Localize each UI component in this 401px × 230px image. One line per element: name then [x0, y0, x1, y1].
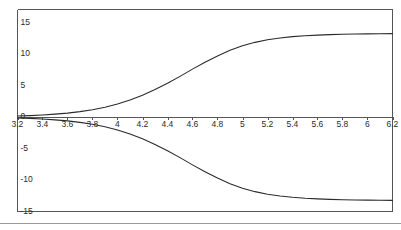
- x-tick-label-3: 3.8: [87, 120, 99, 129]
- x-tick-label-12: 5.6: [312, 120, 324, 129]
- y-tick-label-5: -10: [21, 175, 33, 184]
- x-tick-label-1: 3.4: [37, 120, 49, 129]
- x-tick-label-5: 4.2: [137, 120, 149, 129]
- y-tick-label-2: 5: [21, 81, 26, 90]
- curve-lower-branch: [18, 118, 393, 200]
- plot-canvas: [0, 0, 401, 230]
- x-tick-label-14: 6: [365, 120, 370, 129]
- y-tick-label-6: -15: [21, 207, 33, 216]
- x-tick-label-8: 4.8: [212, 120, 224, 129]
- plot-frame: [18, 10, 393, 212]
- x-tick-label-11: 5.4: [287, 120, 299, 129]
- page-separator-rule: [0, 223, 401, 224]
- x-tick-label-10: 5.2: [262, 120, 274, 129]
- x-tick-label-13: 5.8: [337, 120, 349, 129]
- x-tick-label-4: 4: [115, 120, 120, 129]
- x-tick-label-6: 4.4: [162, 120, 174, 129]
- figure-panel: 151050-5-10-15 3.23.43.63.844.24.44.64.8…: [0, 0, 401, 230]
- y-tick-label-1: 10: [21, 49, 30, 58]
- curve-upper-branch: [18, 34, 393, 116]
- x-tick-label-0: 3.2: [12, 120, 24, 129]
- chart-page: 151050-5-10-15 3.23.43.63.844.24.44.64.8…: [0, 0, 401, 230]
- y-tick-label-0: 15: [21, 18, 30, 27]
- x-tick-label-2: 3.6: [62, 120, 74, 129]
- x-tick-label-7: 4.6: [187, 120, 199, 129]
- x-tick-label-15: 6.2: [387, 120, 399, 129]
- y-tick-label-4: -5: [21, 144, 29, 153]
- x-tick-label-9: 5: [240, 120, 245, 129]
